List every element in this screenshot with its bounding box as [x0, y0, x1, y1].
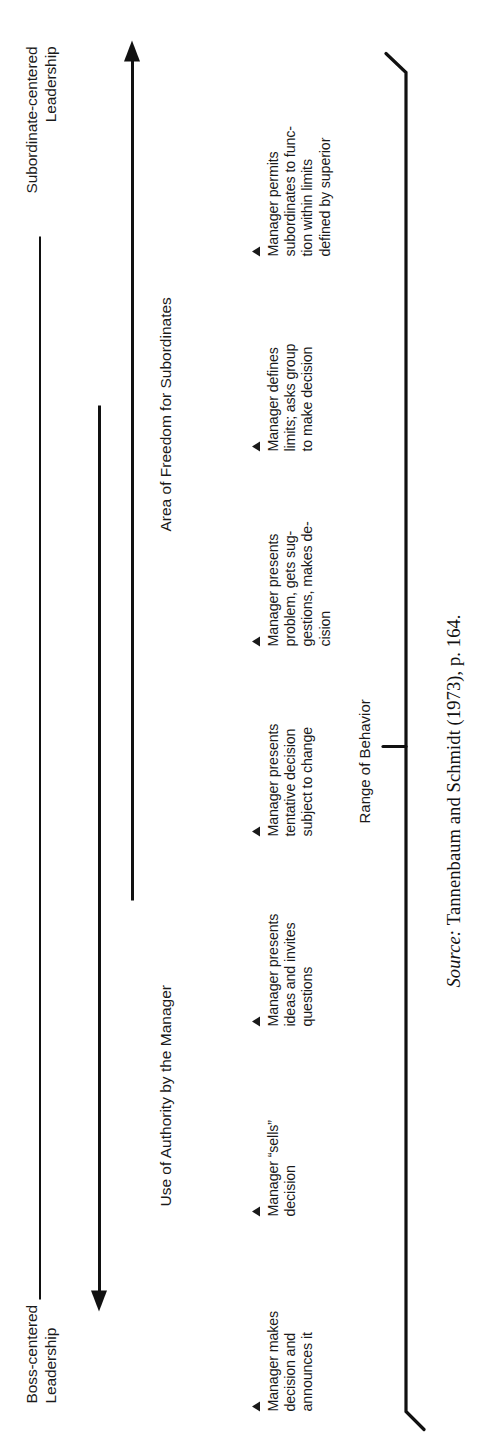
behavior-line: tion within limits	[299, 106, 316, 256]
behavior-line: subordinates to func-	[282, 106, 299, 256]
behavior-line: Manager presents	[265, 706, 282, 836]
behavior-line: tentative decision	[282, 706, 299, 836]
triangle-up-icon	[252, 1206, 260, 1216]
behavior-line: problem, gets sug-	[282, 516, 299, 646]
use-of-authority-caption: Use of Authority by the Manager	[156, 985, 175, 1206]
boss-centered-label-line1: Boss-centered	[22, 1304, 41, 1403]
area-of-freedom-caption: Area of Freedom for Subordinates	[156, 297, 175, 531]
behavior-line: subject to change	[299, 706, 316, 836]
behavior-line: defined by superior	[317, 106, 334, 256]
behavior-line: questions	[299, 896, 316, 1026]
behavior-column: Manager makes decision and announces it	[252, 1281, 317, 1411]
header-rule	[39, 236, 41, 1299]
behavior-line: gestions, makes de-	[299, 516, 316, 646]
behavior-line: announces it	[299, 1281, 316, 1411]
triangle-up-icon	[252, 636, 260, 646]
triangle-up-icon	[252, 826, 260, 836]
behavior-line: Manager permits	[265, 106, 282, 256]
source-citation: Source: Tannenbaum and Schmidt (1973), p…	[444, 614, 465, 987]
behavior-line: Manager makes	[265, 1281, 282, 1411]
subordinate-centered-label-line2: Leadership	[41, 46, 60, 286]
source-prefix: Source:	[444, 929, 464, 987]
figure-canvas: Boss-centered Leadership Subordinate-cen…	[0, 0, 478, 1451]
behavior-line: limits; asks group	[282, 321, 299, 451]
boss-centered-label-line2: Leadership	[41, 1304, 60, 1403]
triangle-up-icon	[252, 1401, 260, 1411]
behavior-line: Manager defines	[265, 321, 282, 451]
behavior-line: ideas and invites	[282, 896, 299, 1026]
behavior-line: Manager presents	[265, 896, 282, 1026]
behavior-line: to make decision	[299, 321, 316, 451]
triangle-up-icon	[252, 1016, 260, 1026]
triangle-up-icon	[252, 441, 260, 451]
triangle-up-icon	[252, 246, 260, 256]
behavior-column: Manager defines limits; asks group to ma…	[252, 321, 317, 451]
behavior-column: Manager permits subordinates to func- ti…	[252, 106, 334, 256]
behavior-column: Manager presents problem, gets sug- gest…	[252, 516, 334, 646]
behavior-column: Manager “sells” decision	[252, 1086, 299, 1216]
behavior-line: cision	[317, 516, 334, 646]
behavior-column: Manager presents ideas and invites quest…	[252, 896, 317, 1026]
range-of-behavior-caption: Range of Behavior	[356, 699, 373, 823]
source-text: Tannenbaum and Schmidt (1973), p. 164.	[444, 614, 464, 925]
behavior-line: decision	[282, 1086, 299, 1216]
behavior-column: Manager presents tentative decision subj…	[252, 706, 317, 836]
behavior-line: Manager presents	[265, 516, 282, 646]
boss-centered-label: Boss-centered Leadership	[22, 1304, 60, 1403]
behavior-line: Manager “sells”	[265, 1086, 282, 1216]
rotated-figure-wrapper: Boss-centered Leadership Subordinate-cen…	[0, 0, 478, 1451]
range-bracket	[0, 0, 478, 1451]
behavior-line: decision and	[282, 1281, 299, 1411]
